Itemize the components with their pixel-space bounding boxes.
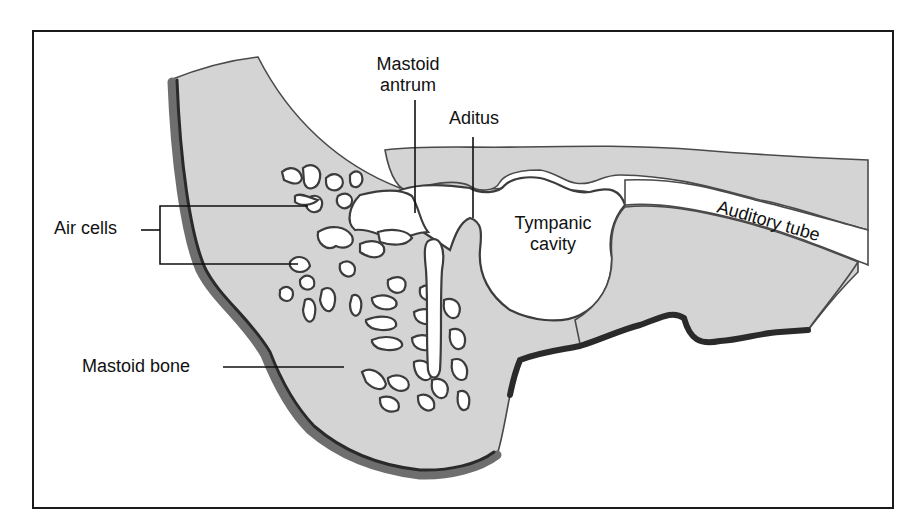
label-mastoid-antrum-line2: antrum — [380, 75, 436, 95]
label-aditus-text: Aditus — [449, 108, 499, 128]
mastoid-anatomy-diagram: Mastoid antrum Aditus Air cells Tympanic… — [0, 0, 921, 530]
label-mastoid-antrum-line1: Mastoid — [376, 54, 439, 74]
label-air-cells-text: Air cells — [54, 218, 117, 238]
label-tympanic-cavity-line2: cavity — [530, 234, 576, 254]
label-mastoid-bone-text: Mastoid bone — [82, 356, 190, 376]
label-tympanic-cavity-line1: Tympanic — [514, 213, 591, 233]
